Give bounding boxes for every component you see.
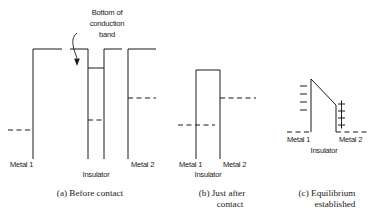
plus-sign-1 — [338, 101, 345, 108]
panel-b-caption-line1: (b) Just after — [199, 188, 245, 198]
annotation-line-2: conduction — [90, 19, 125, 28]
diagram-canvas: Bottom of conduction band Metal 1 Insula… — [0, 0, 381, 218]
panel-c-caption-line2: established — [315, 199, 356, 209]
panel-c-sloped-band — [311, 79, 336, 105]
panel-a-label-insulator: Insulator — [83, 170, 111, 179]
panel-a-label-metal2: Metal 2 — [131, 160, 154, 169]
annotation-line-3: band — [99, 30, 115, 39]
annotation-arrow-head — [74, 59, 80, 67]
plus-sign-4 — [338, 122, 345, 129]
plus-sign-3 — [338, 115, 345, 122]
panel-c-label-metal1: Metal 1 — [287, 135, 310, 144]
panel-c-label-metal2: Metal 2 — [339, 135, 362, 144]
panel-c-label-insulator: Insulator — [311, 146, 339, 155]
panel-a-label-metal1: Metal 1 — [10, 160, 33, 169]
panel-b-label-insulator: Insulator — [195, 170, 223, 179]
panel-c: Metal 1 Metal 2 Insulator (c) Equilibriu… — [287, 79, 369, 209]
energy-band-figure: Bottom of conduction band Metal 1 Insula… — [0, 0, 381, 218]
panel-a: Bottom of conduction band Metal 1 Insula… — [8, 8, 156, 198]
panel-b-caption-line2: contact — [217, 199, 244, 209]
plus-sign-2 — [338, 108, 345, 115]
positive-charge-group — [338, 101, 345, 129]
panel-b: Metal 1 Metal 2 Insulator (b) Just after… — [178, 70, 256, 209]
panel-a-caption: (a) Before contact — [57, 188, 124, 198]
negative-charge-group — [300, 86, 307, 110]
annotation-arrow-curve — [73, 33, 77, 58]
panel-c-caption-line1: (c) Equilibrium — [299, 188, 356, 198]
panel-b-label-metal2: Metal 2 — [223, 160, 246, 169]
panel-b-label-metal1: Metal 1 — [179, 160, 202, 169]
annotation-line-1: Bottom of — [92, 8, 124, 17]
